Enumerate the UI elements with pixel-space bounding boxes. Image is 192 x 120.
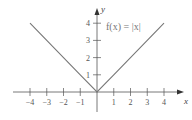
y-tick-label: 3 [86, 36, 90, 45]
x-tick-label: 4 [162, 98, 166, 107]
x-tick-label: −3 [42, 98, 51, 107]
y-axis-label: y [100, 4, 105, 14]
y-tick-label: 2 [86, 54, 90, 63]
function-label: f(x) = |x| [106, 21, 141, 33]
y-ticks: 1234 [86, 19, 101, 80]
y-axis-arrow-icon [95, 8, 100, 15]
x-tick-label: −2 [59, 98, 68, 107]
x-axis-label: x [183, 96, 188, 106]
x-tick-label: 2 [129, 98, 133, 107]
y-tick-label: 4 [86, 19, 90, 28]
axes [13, 8, 184, 112]
x-tick-label: −1 [76, 98, 85, 107]
abs-value-graph: −4−3−2−11234 1234 x y f(x) = |x| [0, 0, 192, 120]
x-tick-label: −4 [26, 98, 35, 107]
x-tick-label: 1 [112, 98, 116, 107]
y-tick-label: 1 [86, 71, 90, 80]
x-axis-arrow-icon [177, 90, 184, 95]
x-tick-label: 3 [145, 98, 149, 107]
